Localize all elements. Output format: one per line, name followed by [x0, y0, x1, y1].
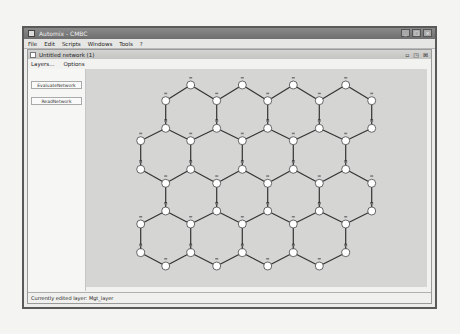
node-label [189, 245, 192, 247]
network-node[interactable] [213, 262, 221, 270]
node-label [241, 161, 244, 163]
network-edge[interactable] [319, 253, 345, 266]
node-label [139, 245, 142, 247]
network-node[interactable] [187, 165, 195, 173]
network-node[interactable] [137, 249, 145, 257]
node-label [344, 133, 347, 135]
network-node[interactable] [315, 262, 323, 270]
network-node[interactable] [289, 137, 297, 145]
node-label [292, 161, 295, 163]
node-label [318, 258, 321, 260]
network-node[interactable] [137, 137, 145, 145]
network-node[interactable] [213, 207, 221, 215]
network-edge[interactable] [346, 169, 372, 183]
node-label [215, 175, 218, 177]
node-label [164, 175, 167, 177]
network-node[interactable] [187, 137, 195, 145]
network-graph[interactable] [0, 0, 460, 334]
node-label [292, 245, 295, 247]
node-label [139, 161, 142, 163]
node-label [189, 216, 192, 218]
network-node[interactable] [315, 179, 323, 187]
node-label [292, 216, 295, 218]
network-node[interactable] [238, 137, 246, 145]
network-edge[interactable] [319, 169, 345, 183]
network-node[interactable] [162, 262, 170, 270]
network-node[interactable] [238, 249, 246, 257]
network-node[interactable] [238, 165, 246, 173]
network-node[interactable] [137, 165, 145, 173]
network-edge[interactable] [346, 85, 372, 101]
network-node[interactable] [368, 207, 376, 215]
node-label [344, 161, 347, 163]
node-label [215, 258, 218, 260]
network-edge[interactable] [319, 211, 345, 224]
network-node[interactable] [213, 179, 221, 187]
network-node[interactable] [137, 220, 145, 228]
node-label [318, 93, 321, 95]
network-edge[interactable] [191, 85, 217, 101]
node-label [139, 216, 142, 218]
network-node[interactable] [187, 249, 195, 257]
network-edge[interactable] [293, 85, 319, 101]
node-label [266, 93, 269, 95]
node-label [215, 120, 218, 122]
network-node[interactable] [289, 81, 297, 89]
node-label [266, 258, 269, 260]
network-node[interactable] [289, 220, 297, 228]
node-label [344, 245, 347, 247]
node-label [370, 120, 373, 122]
node-label [266, 175, 269, 177]
network-node[interactable] [342, 81, 350, 89]
node-label [318, 203, 321, 205]
network-node[interactable] [289, 165, 297, 173]
node-label [318, 175, 321, 177]
network-edge[interactable] [293, 169, 319, 183]
node-label [344, 77, 347, 79]
network-node[interactable] [315, 124, 323, 132]
network-node[interactable] [342, 220, 350, 228]
network-node[interactable] [368, 124, 376, 132]
network-node[interactable] [162, 207, 170, 215]
network-node[interactable] [342, 137, 350, 145]
node-label [241, 216, 244, 218]
node-label [164, 258, 167, 260]
node-label [189, 77, 192, 79]
network-node[interactable] [368, 179, 376, 187]
network-node[interactable] [213, 97, 221, 105]
network-node[interactable] [162, 97, 170, 105]
node-label [164, 203, 167, 205]
node-label [370, 175, 373, 177]
network-node[interactable] [264, 124, 272, 132]
network-node[interactable] [187, 81, 195, 89]
node-label [215, 203, 218, 205]
network-edge[interactable] [242, 85, 267, 101]
node-label [318, 120, 321, 122]
node-label [189, 133, 192, 135]
node-label [266, 203, 269, 205]
network-node[interactable] [264, 97, 272, 105]
network-node[interactable] [289, 249, 297, 257]
network-node[interactable] [368, 97, 376, 105]
network-node[interactable] [162, 124, 170, 132]
node-label [139, 133, 142, 135]
network-edge[interactable] [217, 85, 243, 101]
node-label [370, 93, 373, 95]
network-node[interactable] [238, 81, 246, 89]
network-node[interactable] [213, 124, 221, 132]
network-node[interactable] [264, 179, 272, 187]
network-edge[interactable] [166, 85, 191, 101]
network-node[interactable] [162, 179, 170, 187]
network-edge[interactable] [319, 85, 345, 101]
network-node[interactable] [342, 165, 350, 173]
network-edge[interactable] [191, 169, 217, 183]
network-node[interactable] [187, 220, 195, 228]
network-node[interactable] [238, 220, 246, 228]
network-node[interactable] [315, 97, 323, 105]
network-edge[interactable] [268, 85, 294, 101]
network-node[interactable] [342, 249, 350, 257]
network-node[interactable] [264, 262, 272, 270]
network-node[interactable] [264, 207, 272, 215]
node-label [241, 77, 244, 79]
network-node[interactable] [315, 207, 323, 215]
